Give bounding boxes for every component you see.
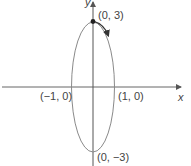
ellipse-diagram xyxy=(0,0,191,166)
start-point-dot xyxy=(91,19,96,24)
y-axis-label: y xyxy=(85,0,91,8)
point-label-left: (−1, 0) xyxy=(40,91,72,102)
point-label-right: (1, 0) xyxy=(118,91,144,102)
point-label-bottom: (0, −3) xyxy=(97,152,129,163)
point-label-top: (0, 3) xyxy=(98,10,124,21)
x-axis-label: x xyxy=(178,92,184,103)
orientation-arrow xyxy=(93,21,108,35)
